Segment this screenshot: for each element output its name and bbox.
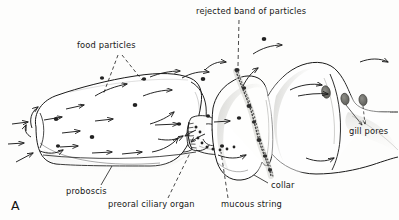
label-gill-pores: gill pores	[349, 127, 388, 135]
gill-pore-3	[358, 94, 367, 106]
anatomical-drawing	[0, 0, 399, 220]
label-collar: collar	[271, 181, 295, 189]
label-preoral-ciliary-organ: preoral ciliary organ	[108, 200, 195, 208]
label-proboscis: proboscis	[66, 187, 107, 195]
label-rejected-band: rejected band of particles	[196, 7, 306, 15]
panel-letter: A	[11, 198, 20, 213]
figure-panel: food particles rejected band of particle…	[0, 0, 399, 220]
proboscis-body	[35, 74, 201, 171]
label-food-particles: food particles	[77, 41, 136, 49]
label-mucous-string: mucous string	[221, 200, 282, 208]
trunk	[268, 62, 398, 174]
